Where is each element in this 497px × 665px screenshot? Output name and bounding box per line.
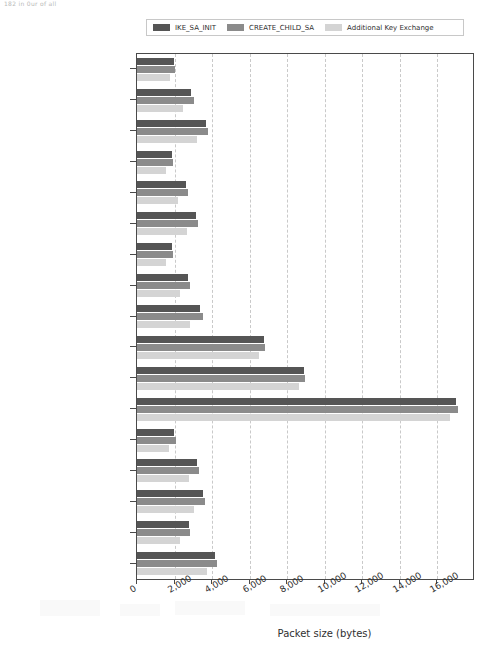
bar-additional key exchange (137, 197, 178, 204)
y-tick-mark (130, 563, 136, 564)
x-gridline (437, 54, 438, 579)
bar-create-child-sa (137, 344, 265, 351)
scan-artifact (270, 604, 380, 616)
y-tick-mark (130, 408, 136, 409)
bar-additional key exchange (137, 136, 197, 143)
y-tick-mark (130, 161, 136, 162)
bar-additional key exchange (137, 290, 180, 297)
bar-create-child-sa (137, 220, 198, 227)
y-tick-mark (130, 377, 136, 378)
bar-ike-sa-init (137, 89, 191, 96)
legend-label: Additional Key Exchange (347, 24, 434, 32)
y-tick-mark (130, 501, 136, 502)
bar-ike-sa-init (137, 429, 174, 436)
y-tick-mark (130, 254, 136, 255)
bar-additional key exchange (137, 475, 189, 482)
page-artifact-text: 182 in 0ur of all (4, 0, 57, 7)
y-tick-mark (130, 192, 136, 193)
bar-additional key exchange (137, 228, 187, 235)
bar-create-child-sa (137, 560, 217, 567)
bar-additional key exchange (137, 506, 194, 513)
legend-swatch-icon (153, 24, 170, 31)
bar-create-child-sa (137, 251, 173, 258)
bar-ike-sa-init (137, 490, 203, 497)
bar-create-child-sa (137, 498, 205, 505)
chart-legend: IKE_SA_INITCREATE_CHILD_SAAdditional Key… (146, 19, 464, 36)
legend-item: IKE_SA_INIT (153, 24, 216, 32)
scan-artifact (40, 600, 100, 616)
bar-additional key exchange (137, 445, 169, 452)
bar-additional key exchange (137, 167, 166, 174)
bar-ike-sa-init (137, 212, 196, 219)
x-axis-title: Packet size (bytes) (0, 628, 497, 639)
legend-swatch-icon (325, 24, 342, 31)
x-gridline (250, 54, 251, 579)
x-gridline (400, 54, 401, 579)
bar-ike-sa-init (137, 58, 174, 65)
x-tick-mark (136, 580, 137, 584)
legend-swatch-icon (227, 24, 244, 31)
x-tick-label: 0 (128, 583, 138, 595)
bar-ike-sa-init (137, 459, 197, 466)
x-gridline (362, 54, 363, 579)
y-tick-mark (130, 532, 136, 533)
bar-additional key exchange (137, 352, 259, 359)
x-axis-title-text: Packet size (bytes) (278, 628, 372, 639)
bar-ike-sa-init (137, 181, 186, 188)
bar-ike-sa-init (137, 151, 172, 158)
bar-ike-sa-init (137, 274, 188, 281)
bar-additional key exchange (137, 383, 299, 390)
y-tick-mark (130, 346, 136, 347)
bar-ike-sa-init (137, 243, 172, 250)
bar-create-child-sa (137, 128, 208, 135)
bar-create-child-sa (137, 97, 194, 104)
bar-create-child-sa (137, 159, 173, 166)
bar-ike-sa-init (137, 305, 200, 312)
bar-additional key exchange (137, 537, 180, 544)
y-tick-mark (130, 99, 136, 100)
plot-area (136, 53, 474, 580)
bar-additional key exchange (137, 105, 183, 112)
bar-additional key exchange (137, 321, 190, 328)
bar-create-child-sa (137, 313, 203, 320)
bar-ike-sa-init (137, 367, 304, 374)
bar-ike-sa-init (137, 552, 215, 559)
bar-create-child-sa (137, 467, 199, 474)
bar-additional key exchange (137, 259, 166, 266)
scan-artifact (120, 604, 160, 616)
legend-label: IKE_SA_INIT (175, 24, 216, 32)
y-tick-mark (130, 439, 136, 440)
y-tick-mark (130, 68, 136, 69)
y-tick-mark (130, 470, 136, 471)
y-tick-mark (130, 223, 136, 224)
bar-ike-sa-init (137, 398, 456, 405)
legend-label: CREATE_CHILD_SA (249, 24, 314, 32)
legend-item: Additional Key Exchange (325, 24, 434, 32)
bar-create-child-sa (137, 406, 458, 413)
legend-item: CREATE_CHILD_SA (227, 24, 314, 32)
x-gridline (287, 54, 288, 579)
bar-ike-sa-init (137, 120, 206, 127)
bar-create-child-sa (137, 437, 176, 444)
bar-ike-sa-init (137, 521, 189, 528)
bar-ike-sa-init (137, 336, 264, 343)
bar-create-child-sa (137, 529, 190, 536)
x-gridline (212, 54, 213, 579)
bar-create-child-sa (137, 282, 190, 289)
x-gridline (325, 54, 326, 579)
y-tick-mark (130, 285, 136, 286)
bar-create-child-sa (137, 66, 175, 73)
y-tick-mark (130, 316, 136, 317)
bar-additional key exchange (137, 414, 450, 421)
bar-additional key exchange (137, 74, 170, 81)
bar-create-child-sa (137, 375, 305, 382)
y-tick-mark (130, 130, 136, 131)
bar-create-child-sa (137, 189, 188, 196)
bar-additional key exchange (137, 568, 207, 575)
scan-artifact (175, 601, 245, 615)
